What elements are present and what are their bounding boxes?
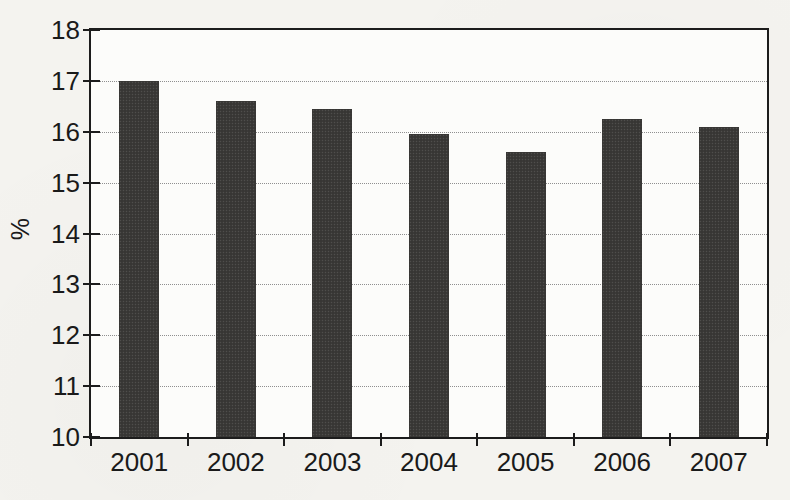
bar-2004 [409,134,449,437]
x-tick-7 [766,433,768,446]
x-tick-3 [380,433,382,446]
y-tick-label-10: 10 [0,424,80,450]
y-tick-11 [83,385,100,387]
y-tick-label-12: 12 [0,322,80,348]
y-tick-18 [83,29,100,31]
y-tick-13 [83,283,100,285]
y-tick-label-15: 15 [0,170,80,196]
x-tick-label-2006: 2006 [574,448,671,476]
y-tick-12 [83,334,100,336]
bar-2006 [602,119,642,437]
bar-chart: % 181716151413121110 2001200220032004200… [0,0,790,500]
bar-2003 [312,109,352,437]
x-tick-label-2005: 2005 [477,448,574,476]
y-tick-14 [83,233,100,235]
x-tick-4 [476,433,478,446]
y-tick-label-11: 11 [0,373,80,399]
x-tick-label-2002: 2002 [188,448,285,476]
y-tick-label-17: 17 [0,68,80,94]
y-tick-label-13: 13 [0,271,80,297]
x-tick-label-2004: 2004 [381,448,478,476]
x-tick-label-2003: 2003 [284,448,381,476]
y-tick-17 [83,80,100,82]
y-tick-label-18: 18 [0,17,80,43]
y-tick-16 [83,131,100,133]
y-tick-label-16: 16 [0,119,80,145]
x-tick-label-2007: 2007 [670,448,767,476]
gridline-17 [91,81,767,82]
x-tick-label-2001: 2001 [91,448,188,476]
x-tick-1 [187,433,189,446]
x-tick-2 [283,433,285,446]
x-tick-5 [573,433,575,446]
plot-area [91,30,767,437]
y-tick-label-14: 14 [0,221,80,247]
gridline-16 [91,132,767,133]
bar-2001 [119,81,159,437]
x-tick-0 [90,433,92,446]
x-tick-6 [669,433,671,446]
y-tick-15 [83,182,100,184]
bar-2007 [699,127,739,437]
bar-2005 [506,152,546,437]
bar-2002 [216,101,256,437]
